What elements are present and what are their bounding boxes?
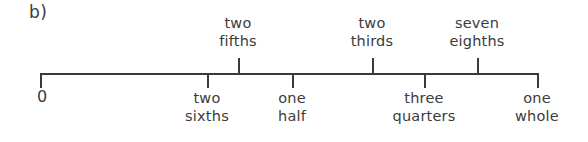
tick-mark-three-quarters bbox=[424, 73, 426, 88]
tick-label-two-thirds-line2: thirds bbox=[351, 32, 394, 50]
tick-mark-seven-eighths bbox=[477, 58, 479, 75]
tick-mark-one-half bbox=[292, 73, 294, 88]
tick-label-one-whole-line1: one bbox=[515, 89, 559, 107]
number-line-figure: b) 0 two sixths one half three quarters … bbox=[0, 0, 588, 142]
tick-label-seven-eighths: seven eighths bbox=[449, 14, 504, 50]
tick-label-zero-line1: 0 bbox=[37, 88, 47, 106]
tick-label-zero: 0 bbox=[37, 88, 47, 106]
tick-label-three-quarters-line2: quarters bbox=[393, 107, 456, 125]
tick-label-one-half-line2: half bbox=[278, 107, 306, 125]
tick-label-seven-eighths-line1: seven bbox=[449, 14, 504, 32]
tick-label-two-thirds-line1: two bbox=[351, 14, 394, 32]
tick-label-two-fifths: two fifths bbox=[219, 14, 257, 50]
tick-label-one-half: one half bbox=[278, 89, 306, 125]
tick-label-two-fifths-line2: fifths bbox=[219, 32, 257, 50]
tick-label-one-half-line1: one bbox=[278, 89, 306, 107]
tick-mark-two-sixths bbox=[207, 73, 209, 88]
tick-label-seven-eighths-line2: eighths bbox=[449, 32, 504, 50]
tick-label-two-sixths: two sixths bbox=[185, 89, 229, 125]
panel-letter: b) bbox=[29, 2, 47, 22]
tick-label-two-sixths-line1: two bbox=[185, 89, 229, 107]
number-line-axis bbox=[40, 73, 538, 75]
tick-mark-one-whole bbox=[537, 73, 539, 88]
tick-mark-zero bbox=[40, 73, 42, 88]
tick-label-two-fifths-line1: two bbox=[219, 14, 257, 32]
tick-label-one-whole: one whole bbox=[515, 89, 559, 125]
tick-label-three-quarters-line1: three bbox=[393, 89, 456, 107]
tick-label-two-sixths-line2: sixths bbox=[185, 107, 229, 125]
tick-mark-two-fifths bbox=[238, 58, 240, 75]
tick-label-one-whole-line2: whole bbox=[515, 107, 559, 125]
tick-label-two-thirds: two thirds bbox=[351, 14, 394, 50]
tick-mark-two-thirds bbox=[372, 58, 374, 75]
tick-label-three-quarters: three quarters bbox=[393, 89, 456, 125]
